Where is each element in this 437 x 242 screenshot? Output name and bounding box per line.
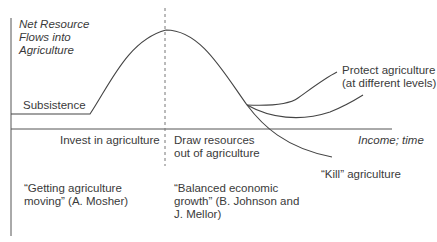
draw-label-line: out of agriculture [174,147,260,160]
johnson-mellor-quote-line: growth” (B. Johnson and [174,195,299,208]
protect-label-line: (at different levels) [342,77,436,90]
y-axis-label-line: Net Resource [19,18,89,31]
mosher-quote-line: “Getting agriculture [24,182,128,195]
resource-flow-diagram: Net Resource Flows into Agriculture Subs… [0,0,437,242]
johnson-mellor-quote-line: “Balanced economic [174,182,299,195]
johnson-mellor-quote-line: J. Mellor) [174,208,299,221]
invest-phase-label: Invest in agriculture [60,134,160,147]
subsistence-label: Subsistence [23,99,86,112]
x-axis-label: Income; time [358,134,424,147]
mosher-quote: “Getting agriculture moving” (A. Mosher) [24,182,128,208]
y-axis-label-line: Flows into [19,31,89,44]
kill-curve [247,105,332,157]
y-axis-label: Net Resource Flows into Agriculture [19,18,89,57]
mosher-quote-line: moving” (A. Mosher) [24,195,128,208]
protect-label-line: Protect agriculture [342,64,436,77]
protect-agriculture-label: Protect agriculture (at different levels… [342,64,436,90]
johnson-mellor-quote: “Balanced economic growth” (B. Johnson a… [174,182,299,221]
protect-lower-curve [247,95,363,118]
draw-label-line: Draw resources [174,134,260,147]
kill-agriculture-label: “Kill” agriculture [321,168,401,181]
y-axis-label-line: Agriculture [19,44,89,57]
draw-resources-phase-label: Draw resources out of agriculture [174,134,260,160]
protect-upper-curve [247,72,337,105]
